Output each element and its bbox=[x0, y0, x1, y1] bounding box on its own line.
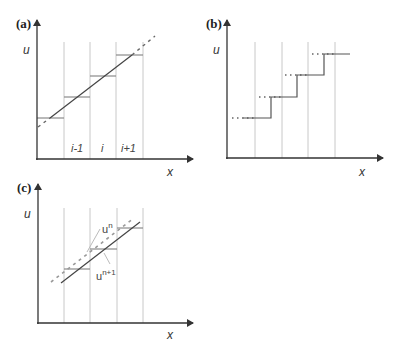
panel-c-y-axis-label: u bbox=[24, 207, 31, 221]
panel-c: (c) u x un un+1 bbox=[17, 180, 193, 342]
panel-b-dotted-extensions bbox=[232, 54, 335, 118]
panel-a-y-axis-label: u bbox=[23, 43, 30, 57]
panel-a-label: (a) bbox=[16, 16, 31, 31]
panel-c-x-axis-label: x bbox=[166, 328, 174, 342]
panel-b-x-axis-label: x bbox=[358, 165, 366, 179]
panel-b: (b) u x bbox=[206, 16, 383, 179]
cell-label-i-minus-1: i-1 bbox=[71, 142, 83, 154]
panel-b-y-axis-label: u bbox=[213, 43, 220, 57]
panel-c-label: (c) bbox=[17, 180, 31, 195]
panel-a: (a) u x i-1 i i+1 bbox=[16, 16, 193, 179]
panel-a-linear-reconstruction bbox=[50, 55, 132, 118]
cell-label-i: i bbox=[101, 142, 104, 154]
panel-b-label: (b) bbox=[206, 16, 222, 31]
cell-label-i-plus-1: i+1 bbox=[121, 142, 136, 154]
panel-a-x-axis-label: x bbox=[166, 165, 174, 179]
panel-a-dashed-extension-left bbox=[38, 118, 50, 127]
panel-c-un-label: un bbox=[102, 221, 113, 235]
figure-canvas: (a) u x i-1 i i+1 (b) u x bbox=[0, 0, 402, 354]
panel-b-staircase bbox=[243, 54, 350, 118]
panel-c-un1-label: un+1 bbox=[96, 268, 116, 282]
panel-b-gridlines bbox=[255, 42, 335, 158]
panel-c-un1-pointer bbox=[104, 253, 110, 264]
